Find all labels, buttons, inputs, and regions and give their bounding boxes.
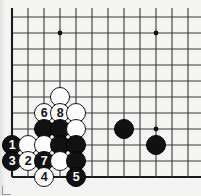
move-number-label: 6: [41, 106, 48, 119]
corner-crop-mark: [2, 186, 11, 195]
move-number-label: 3: [9, 154, 16, 167]
go-board-diagram: 68132745: [0, 0, 201, 196]
move-number-label: 8: [57, 106, 64, 119]
move-number-label: 1: [9, 138, 16, 151]
move-number-label: 2: [25, 154, 32, 167]
stone-black: [146, 135, 166, 155]
stone-black-move-5: 5: [66, 167, 86, 187]
move-number-label: 7: [41, 154, 48, 167]
move-number-label: 5: [73, 170, 80, 183]
move-number-label: 4: [41, 170, 48, 183]
stone-black: [114, 119, 134, 139]
stone-white-move-4: 4: [34, 167, 54, 187]
